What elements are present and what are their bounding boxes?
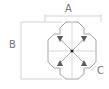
- diagram: A B C: [0, 0, 109, 89]
- shape-drawing: [0, 0, 109, 89]
- dimension-lines: [21, 14, 101, 79]
- center-point: [71, 50, 74, 53]
- label-c: C: [97, 66, 104, 76]
- label-a: A: [65, 4, 72, 14]
- label-b: B: [9, 40, 16, 50]
